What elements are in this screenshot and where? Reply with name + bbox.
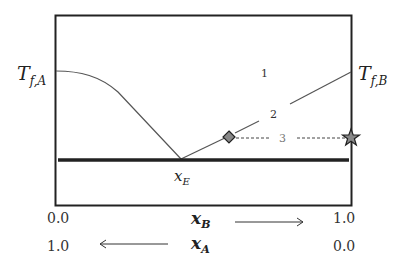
- region-label-1: 1: [261, 67, 268, 80]
- left-arrow-icon: [100, 240, 168, 248]
- right-arrow-icon: [235, 218, 303, 226]
- tf-b-sub: f,B: [370, 74, 388, 88]
- xa-start-tick: 1.0: [47, 238, 69, 254]
- eutectic-composition-label: xE: [174, 167, 190, 187]
- region-label-2: 2: [270, 108, 277, 121]
- phase-diagram: 1 2 3 Tf,A Tf,B xE 0.0 xB 1.0 1.0 xA 0.0: [0, 0, 409, 273]
- xa-end-tick: 0.0: [333, 238, 355, 254]
- xb-end-tick: 1.0: [333, 210, 355, 226]
- tf-b-label: Tf,B: [358, 62, 388, 88]
- xe-sub: E: [181, 176, 190, 187]
- xa-axis-label: xA: [190, 233, 210, 256]
- xa-sub: A: [200, 243, 210, 256]
- liquidus-curve-b-upper: [235, 121, 259, 133]
- region-label-3: 3: [279, 132, 286, 145]
- plot-frame: [56, 16, 352, 206]
- liquidus-curve-a: [56, 71, 181, 159]
- tf-a-label: Tf,A: [17, 62, 47, 88]
- xb-axis-label: xB: [190, 208, 210, 231]
- diamond-marker: [223, 131, 235, 143]
- xb-sub: B: [200, 218, 210, 231]
- xb-start-tick: 0.0: [47, 210, 69, 226]
- tf-a-sub: f,A: [29, 74, 47, 88]
- liquidus-curve-b: [181, 136, 229, 159]
- liquidus-curve-b-top: [290, 72, 351, 104]
